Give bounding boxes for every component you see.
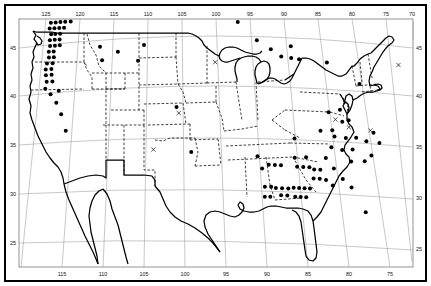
marker-dot — [341, 177, 345, 181]
lat-tick-left: 45 — [10, 45, 16, 51]
marker-dot — [363, 159, 367, 163]
lon-tick-bottom: 80 — [346, 271, 352, 277]
marker-dot — [69, 19, 73, 23]
marker-dot — [58, 20, 62, 24]
marker-dot — [347, 118, 351, 122]
lon-tick-top: 80 — [349, 11, 355, 17]
lat-tick-left: 40 — [10, 93, 16, 99]
marker-dot — [312, 177, 316, 181]
marker-dot — [267, 163, 271, 167]
marker-dot — [338, 108, 342, 112]
marker-dot — [255, 38, 259, 42]
marker-dot — [100, 58, 104, 62]
marker-dot — [59, 112, 63, 116]
marker-dot — [52, 26, 56, 30]
marker-dot — [49, 21, 53, 25]
marker-dot — [301, 165, 305, 169]
marker-dot — [312, 168, 316, 172]
marker-dot — [329, 145, 333, 149]
marker-dot — [289, 56, 293, 60]
marker-dot — [351, 147, 355, 151]
marker-dot — [292, 186, 296, 190]
lon-tick-top: 105 — [178, 11, 187, 17]
marker-dot — [297, 186, 301, 190]
marker-dot — [307, 165, 311, 169]
marker-dot — [256, 154, 260, 158]
lon-tick-top: 70 — [409, 11, 415, 17]
marker-dot — [349, 159, 353, 163]
marker-dot — [324, 178, 328, 182]
marker-dot — [304, 155, 308, 159]
marker-dot — [293, 195, 297, 199]
marker-dot — [175, 105, 179, 109]
lon-tick-bottom: 85 — [305, 271, 311, 277]
marker-dot — [58, 38, 62, 42]
marker-dot — [364, 210, 368, 214]
marker-dot — [364, 139, 368, 143]
marker-dot — [268, 195, 272, 199]
marker-dot — [47, 50, 51, 54]
lat-tick-left: 25 — [10, 240, 16, 246]
marker-dot — [53, 44, 57, 48]
marker-dot — [318, 129, 322, 133]
marker-dot — [340, 120, 344, 124]
lon-tick-top: 120 — [76, 11, 85, 17]
marker-dot — [64, 129, 68, 133]
marker-dot — [293, 156, 297, 160]
marker-dot — [303, 186, 307, 190]
lon-tick-bottom: 115 — [58, 271, 67, 277]
marker-dot — [57, 26, 61, 30]
marker-dot — [45, 80, 49, 84]
marker-dot — [357, 82, 361, 86]
marker-dot — [58, 43, 62, 47]
marker-dot — [51, 61, 55, 65]
marker-dot — [308, 186, 312, 190]
marker-dot — [269, 47, 273, 51]
marker-dot — [299, 195, 303, 199]
marker-dot — [369, 154, 373, 158]
marker-dot — [354, 136, 358, 140]
marker-dot — [58, 32, 62, 36]
marker-dot — [48, 38, 52, 42]
marker-dot — [279, 163, 283, 167]
marker-dot — [54, 101, 58, 105]
lat-tick-left: 30 — [10, 191, 16, 197]
marker-dot — [54, 20, 58, 24]
marker-dot — [344, 136, 348, 140]
lat-tick-right: 25 — [416, 246, 422, 252]
lon-tick-top: 125 — [42, 11, 51, 17]
lon-tick-top: 100 — [212, 11, 221, 17]
marker-dot — [332, 166, 336, 170]
lon-tick-bottom: 110 — [99, 271, 108, 277]
marker-dot — [52, 50, 56, 54]
marker-dot — [50, 73, 54, 77]
marker-dot — [279, 193, 283, 197]
marker-dot — [285, 193, 289, 197]
marker-dot — [98, 45, 102, 49]
lon-tick-top: 115 — [110, 11, 119, 17]
marker-dot — [136, 59, 140, 63]
marker-dot — [327, 110, 331, 114]
marker-dot — [273, 163, 277, 167]
marker-dot — [260, 167, 264, 171]
lon-tick-bottom: 90 — [264, 271, 270, 277]
marker-dot — [53, 38, 57, 42]
marker-dot — [48, 44, 52, 48]
marker-dot — [333, 134, 337, 138]
marker-dot — [324, 156, 328, 160]
marker-dot — [189, 150, 193, 154]
lon-tick-top: 85 — [315, 11, 321, 17]
marker-dot — [63, 20, 67, 24]
marker-dot — [289, 44, 293, 48]
marker-dot — [304, 195, 308, 199]
marker-dot — [49, 32, 53, 36]
lon-tick-top: 95 — [247, 11, 253, 17]
marker-dot — [269, 185, 273, 189]
marker-dot — [142, 43, 146, 47]
marker-dot — [331, 183, 335, 187]
lat-tick-right: 40 — [416, 93, 422, 99]
marker-dot — [325, 61, 329, 65]
marker-dot — [44, 67, 48, 71]
marker-dot — [45, 62, 49, 66]
lat-tick-right: 30 — [416, 195, 422, 201]
